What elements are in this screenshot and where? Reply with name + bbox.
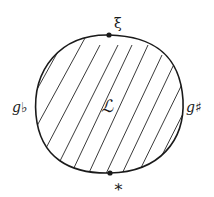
bottom-point-label: ∗	[113, 177, 124, 196]
top-point-label: ξ	[114, 15, 122, 31]
left-label: g♭	[12, 99, 28, 115]
region-label: ℒ	[101, 96, 114, 116]
diagram-canvas: ξ ∗ g♭ g♯ ℒ	[0, 0, 214, 197]
top-point	[106, 32, 111, 37]
bottom-point	[107, 170, 112, 175]
right-label: g♯	[186, 99, 202, 115]
